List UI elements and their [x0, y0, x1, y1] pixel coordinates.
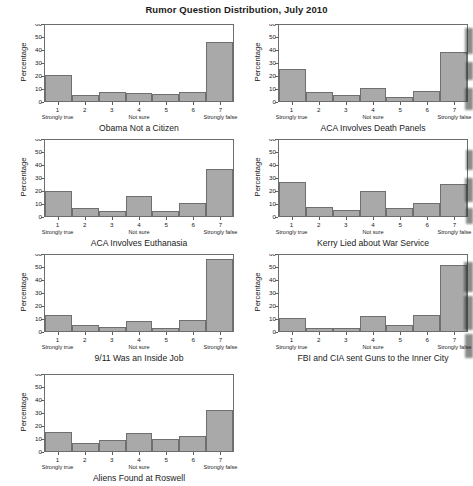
y-tick-label: 30	[26, 290, 42, 296]
bar	[45, 315, 72, 331]
plot-area	[278, 24, 468, 102]
bar-series	[45, 140, 233, 216]
x-tick-mark	[193, 452, 194, 455]
x-tick-mark	[85, 452, 86, 455]
plot-area	[278, 254, 468, 332]
y-tick-label: 50	[26, 384, 42, 390]
x-tick-mark	[319, 332, 320, 335]
bar	[440, 184, 467, 216]
panel-caption: ACA Involves Euthanasia	[44, 238, 234, 248]
x-tick-mark	[400, 102, 401, 105]
bar	[179, 203, 206, 216]
y-tick-label: 10	[260, 86, 276, 92]
y-tick-label: 0	[260, 214, 276, 220]
y-tick-label: 20	[26, 303, 42, 309]
bar	[279, 69, 306, 101]
bar-series	[279, 255, 467, 331]
x-tick-mark	[166, 217, 167, 220]
x-tick-label: 5	[391, 221, 409, 228]
x-tick-label: 2	[310, 106, 328, 113]
x-tick-label: 6	[184, 456, 202, 463]
x-tick-label: 1	[49, 106, 67, 113]
plot-area	[44, 254, 234, 332]
bar	[413, 203, 440, 216]
x-axis-anchor-label: Strongly false	[185, 114, 238, 120]
bar	[279, 318, 306, 331]
x-axis-anchor-label: Not sure	[338, 114, 408, 120]
x-tick-label: 6	[418, 221, 436, 228]
x-tick-mark	[58, 102, 59, 105]
bar	[179, 436, 206, 451]
y-tick-label: 0	[260, 99, 276, 105]
x-tick-mark	[166, 452, 167, 455]
x-axis-anchor-label: Strongly false	[419, 344, 472, 350]
y-tick-label: 60	[260, 139, 276, 142]
plot-area	[44, 24, 234, 102]
x-tick-label: 1	[283, 221, 301, 228]
y-tick-label: 60	[26, 24, 42, 27]
bar-series	[45, 25, 233, 101]
panel-caption: FBI and CIA sent Guns to the Inner City	[278, 353, 468, 363]
figure-root: Rumor Question Distribution, July 2010 P…	[0, 0, 473, 486]
y-tick-label: 20	[26, 73, 42, 79]
bar	[413, 91, 440, 101]
y-tick-label: 50	[260, 264, 276, 270]
y-tick-label: 20	[260, 303, 276, 309]
y-tick-label: 40	[260, 277, 276, 283]
y-tick-label: 20	[26, 188, 42, 194]
bar	[333, 95, 360, 101]
x-axis-anchor-label: Not sure	[338, 229, 408, 235]
bar	[306, 328, 333, 331]
bar	[152, 328, 179, 331]
x-tick-label: 2	[76, 336, 94, 343]
x-tick-label: 1	[49, 221, 67, 228]
y-tick-label: 60	[260, 24, 276, 27]
chart-panel: Percentage01020304050601Strongly true234…	[18, 24, 238, 136]
bar	[152, 94, 179, 101]
x-axis-anchor-label: Not sure	[104, 344, 174, 350]
x-tick-mark	[85, 102, 86, 105]
bar-series	[45, 255, 233, 331]
bar	[126, 196, 153, 216]
x-axis-anchor-label: Strongly false	[185, 229, 238, 235]
x-tick-label: 3	[103, 456, 121, 463]
bar	[279, 182, 306, 216]
x-axis-anchor-label: Strongly true	[257, 229, 327, 235]
x-tick-mark	[427, 332, 428, 335]
bar	[126, 321, 153, 331]
x-tick-mark	[319, 102, 320, 105]
chart-panel: Percentage01020304050601Strongly true234…	[252, 139, 472, 251]
x-tick-label: 5	[391, 336, 409, 343]
x-tick-mark	[58, 217, 59, 220]
bar-series	[279, 140, 467, 216]
plot-area	[44, 374, 234, 452]
panel-caption: Kerry Lied about War Service	[278, 238, 468, 248]
x-tick-mark	[112, 217, 113, 220]
x-tick-mark	[193, 332, 194, 335]
bar	[306, 92, 333, 101]
panel-caption: Obama Not a Citizen	[44, 123, 234, 133]
x-tick-label: 3	[103, 336, 121, 343]
x-tick-label: 3	[337, 106, 355, 113]
y-tick-mark	[41, 102, 44, 103]
x-axis-anchor-label: Strongly true	[257, 114, 327, 120]
bar	[386, 325, 413, 331]
bar	[413, 315, 440, 331]
x-axis-anchor-label: Strongly true	[257, 344, 327, 350]
x-tick-label: 6	[184, 106, 202, 113]
x-tick-mark	[373, 332, 374, 335]
y-tick-label: 30	[26, 175, 42, 181]
y-tick-label: 50	[26, 264, 42, 270]
bar	[306, 207, 333, 216]
bar	[360, 316, 387, 331]
y-tick-label: 20	[26, 423, 42, 429]
y-tick-label: 0	[26, 449, 42, 455]
plot-area	[44, 139, 234, 217]
y-tick-mark	[275, 102, 278, 103]
y-tick-mark	[41, 452, 44, 453]
bar	[386, 208, 413, 216]
y-tick-label: 10	[26, 201, 42, 207]
y-tick-label: 10	[26, 86, 42, 92]
bar	[72, 95, 99, 101]
bar	[179, 92, 206, 102]
